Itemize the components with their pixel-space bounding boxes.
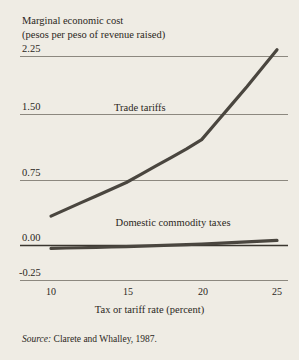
series-line-trade-tariffs	[51, 50, 277, 216]
y-tick-label-0-00: 0.00	[22, 232, 40, 243]
x-axis-caption: Tax or tariff rate (percent)	[95, 304, 204, 315]
series-line-domestic-commodity-taxes	[51, 240, 277, 248]
x-tick-label-15: 15	[123, 286, 133, 297]
y-tick-label-neg-0-25: -0.25	[19, 267, 41, 278]
figure-container: Marginal economic cost (pesos per peso o…	[0, 0, 299, 360]
x-tick-label-20: 20	[198, 286, 208, 297]
x-tick-label-10: 10	[46, 286, 56, 297]
x-tick-label-25: 25	[272, 286, 282, 297]
source-note-text: Clarete and Whalley, 1987.	[54, 334, 157, 344]
series-label-trade-tariffs: Trade tariffs	[114, 102, 166, 113]
source-note-label: Source:	[22, 334, 51, 344]
y-tick-label-0-75: 0.75	[22, 167, 40, 178]
y-tick-label-1-50: 1.50	[22, 101, 40, 112]
y-tick-label-2-25: 2.25	[22, 43, 40, 54]
source-note: Source: Clarete and Whalley, 1987.	[22, 334, 157, 344]
series-label-domestic-commodity-taxes: Domestic commodity taxes	[116, 217, 231, 228]
